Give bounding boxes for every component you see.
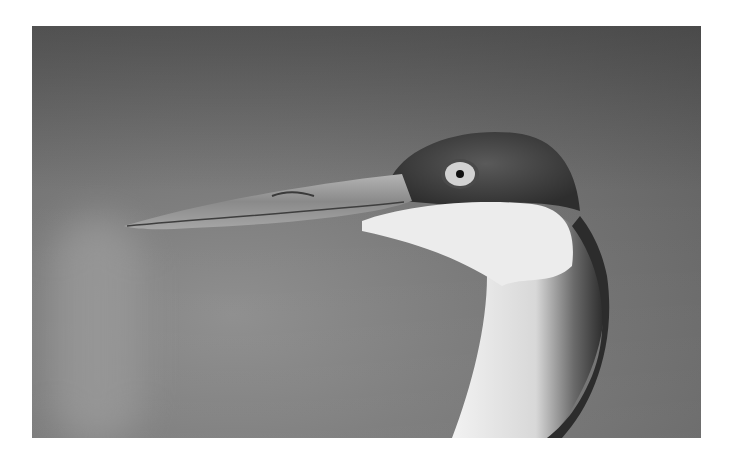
crown	[392, 132, 580, 211]
crane-head-illustration	[32, 26, 701, 438]
eye	[441, 159, 479, 189]
cheek	[362, 202, 573, 286]
bird-photo	[32, 26, 701, 438]
